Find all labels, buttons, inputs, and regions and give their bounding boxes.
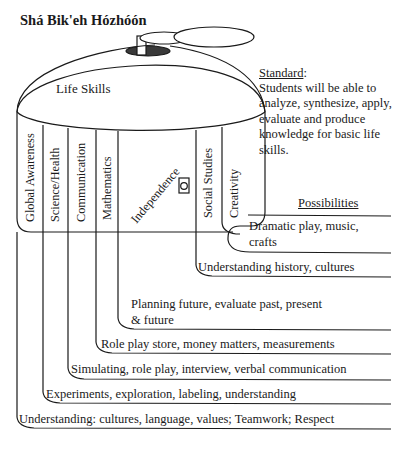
lid-large-oval (174, 27, 254, 47)
column-label-communication: Communication (74, 143, 89, 222)
possibility-row-mathematics: Role play store, money matters, measurem… (101, 337, 335, 352)
standard-heading: Standard: (259, 66, 307, 81)
drum-label: Life Skills (56, 81, 111, 97)
small-window-circle-icon (179, 178, 189, 193)
possibility-row-global-awareness: Understanding: cultures, language, value… (19, 412, 334, 427)
standard-body: Students will be able to analyze, synthe… (259, 81, 394, 158)
possibility-row-independence: Planning future, evaluate past, present … (131, 296, 331, 328)
column-label-science-health: Science/Health (48, 148, 63, 222)
column-label-creativity: Creativity (227, 169, 242, 218)
possibility-row-science-health: Experiments, exploration, labeling, unde… (46, 387, 296, 402)
possibility-row-creativity: Dramatic play, music, crafts (249, 218, 359, 250)
possibility-row-social-studies: Understanding history, cultures (198, 260, 354, 275)
column-label-mathematics: Mathematics (100, 156, 115, 220)
page-title: Shá Bik'eh Hózhóón (20, 12, 147, 29)
possibility-row-communication: Simulating, role play, interview, verbal… (71, 362, 346, 377)
drum-top-ellipse (17, 65, 265, 112)
column-label-global-awareness: Global Awareness (23, 133, 38, 222)
column-label-social-studies: Social Studies (201, 148, 216, 218)
possibilities-heading: Possibilities (298, 196, 358, 211)
standard-heading-text: Standard (259, 66, 303, 80)
standard-heading-colon: : (303, 66, 306, 80)
